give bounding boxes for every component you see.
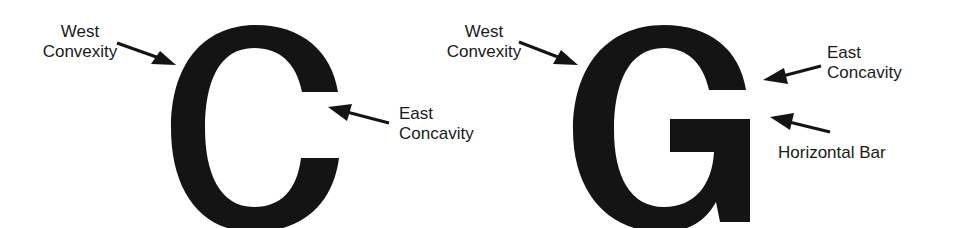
label-c-west-convexity: West Convexity — [30, 22, 130, 62]
letter-g-glyph — [573, 25, 750, 228]
label-g-east-concavity: East Concavity — [827, 43, 902, 83]
label-line: Concavity — [399, 124, 474, 144]
label-line: Convexity — [30, 42, 130, 62]
label-c-east-concavity: East Concavity — [399, 104, 474, 144]
letter-c-glyph — [171, 25, 339, 228]
arrow-c-east — [328, 104, 389, 123]
letter-features-diagram: West Convexity East Concavity West Conve… — [0, 0, 953, 228]
arrow-g-east — [763, 66, 821, 84]
arrow-g-bar — [770, 113, 830, 132]
label-line: West — [30, 22, 130, 42]
label-line: Convexity — [434, 42, 534, 62]
label-line: East — [827, 43, 902, 63]
label-line: Horizontal Bar — [778, 143, 886, 163]
label-line: East — [399, 104, 474, 124]
label-g-west-convexity: West Convexity — [434, 22, 534, 62]
label-g-horizontal-bar: Horizontal Bar — [778, 143, 886, 163]
label-line: West — [434, 22, 534, 42]
label-line: Concavity — [827, 63, 902, 83]
